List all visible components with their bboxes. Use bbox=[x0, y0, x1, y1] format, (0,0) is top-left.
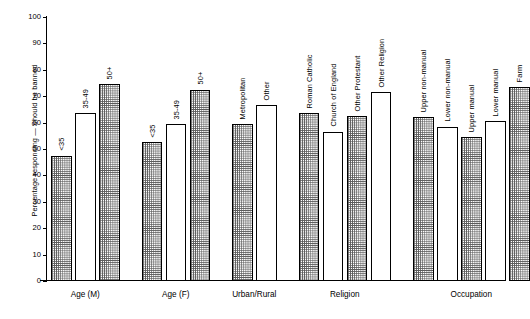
bar: Church of England bbox=[323, 132, 344, 281]
bar: Other Religion bbox=[371, 92, 392, 281]
bar: 35-49 bbox=[166, 124, 187, 281]
y-axis-ticks: 0102030405060708090100 bbox=[0, 0, 47, 319]
bar: Other Protestant bbox=[347, 116, 368, 281]
bar: 50+ bbox=[190, 90, 211, 281]
bar: Upper manual bbox=[461, 137, 482, 281]
bar: Lower manual bbox=[485, 121, 506, 281]
y-axis-tick-label: 70 bbox=[33, 92, 41, 100]
y-axis-tick-label: 20 bbox=[33, 224, 41, 232]
bar: <35 bbox=[142, 142, 163, 281]
bar: <35 bbox=[51, 156, 72, 281]
y-axis-tick-label: 90 bbox=[33, 40, 41, 48]
y-axis-tick-label: 80 bbox=[33, 66, 41, 74]
x-axis-group-label: Urban/Rural bbox=[232, 290, 276, 299]
bar-label: Upper non-manual bbox=[420, 50, 427, 113]
bar: Lower non-manual bbox=[437, 127, 458, 281]
bar: Upper non-manual bbox=[413, 117, 434, 281]
bar-label: <35 bbox=[148, 125, 155, 138]
bar-label: 35-49 bbox=[82, 89, 89, 108]
x-axis-group-label: Age (M) bbox=[71, 290, 100, 299]
plot-area: <3535-4950+<3535-4950+MetropolitanOtherR… bbox=[47, 17, 497, 281]
x-axis-group-label: Occupation bbox=[451, 290, 492, 299]
bar-label: Farm bbox=[516, 64, 523, 82]
bar-label: 50+ bbox=[106, 66, 113, 79]
bar-label: Other Protestant bbox=[353, 55, 360, 111]
bar: 35-49 bbox=[75, 113, 96, 281]
y-axis-tick-label: 100 bbox=[28, 13, 41, 21]
bar-label: Lower non-manual bbox=[444, 59, 451, 122]
bar: Roman Catholic bbox=[299, 113, 320, 281]
bar: 50+ bbox=[99, 84, 120, 281]
bar-label: 35-49 bbox=[172, 100, 179, 119]
bar-label: Metropolitan bbox=[239, 77, 246, 119]
bar-label: Roman Catholic bbox=[305, 54, 312, 108]
bar-label: Lower manual bbox=[492, 69, 499, 117]
bar: Other bbox=[256, 105, 277, 281]
y-axis-tick-label: 40 bbox=[33, 172, 41, 180]
bar-label: Other bbox=[263, 81, 270, 100]
bar-label: Other Religion bbox=[377, 39, 384, 88]
bar-label: <35 bbox=[58, 138, 65, 151]
bar: Farm bbox=[509, 87, 530, 281]
y-axis-tick-label: 60 bbox=[33, 119, 41, 127]
bar-label: Church of England bbox=[329, 64, 336, 127]
bar-label: Upper manual bbox=[468, 85, 475, 133]
bar-label: 50+ bbox=[196, 72, 203, 85]
x-axis-group-label: Age (F) bbox=[162, 290, 189, 299]
bar: Metropolitan bbox=[232, 124, 253, 281]
y-axis-tick-label: 30 bbox=[33, 198, 41, 206]
x-axis-group-label: Religion bbox=[330, 290, 360, 299]
y-axis-tick-label: 50 bbox=[33, 145, 41, 153]
y-axis-tick-label: 10 bbox=[33, 251, 41, 259]
